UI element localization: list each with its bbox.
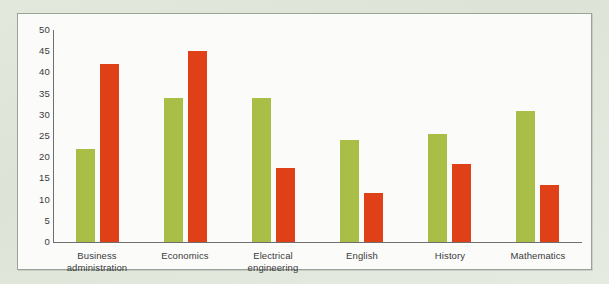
x-axis-category-label: Mathematics: [488, 250, 588, 262]
bar-green: [340, 140, 359, 242]
bar-red: [452, 164, 471, 242]
bar-red: [188, 51, 207, 242]
x-axis-category-labels: Business administrationEconomicsElectric…: [18, 246, 593, 271]
bar-red: [276, 168, 295, 242]
bar-green: [252, 98, 271, 242]
figure-root: 50454035302520151050 Business administra…: [0, 0, 609, 284]
bar-red: [364, 193, 383, 242]
x-axis-category-label: Economics: [135, 250, 235, 262]
bar-red: [100, 64, 119, 242]
x-axis-category-label: Business administration: [47, 250, 147, 273]
x-axis-category-label: English: [312, 250, 412, 262]
bars-layer: [18, 14, 593, 271]
x-axis-category-label: History: [400, 250, 500, 262]
bar-green: [164, 98, 183, 242]
bar-green: [516, 111, 535, 242]
chart-panel: 50454035302520151050 Business administra…: [17, 13, 592, 270]
plot-area: 50454035302520151050 Business administra…: [18, 14, 593, 271]
bar-green: [428, 134, 447, 242]
x-axis-category-label: Electrical engineering: [223, 250, 323, 273]
bar-red: [540, 185, 559, 242]
bar-green: [76, 149, 95, 242]
